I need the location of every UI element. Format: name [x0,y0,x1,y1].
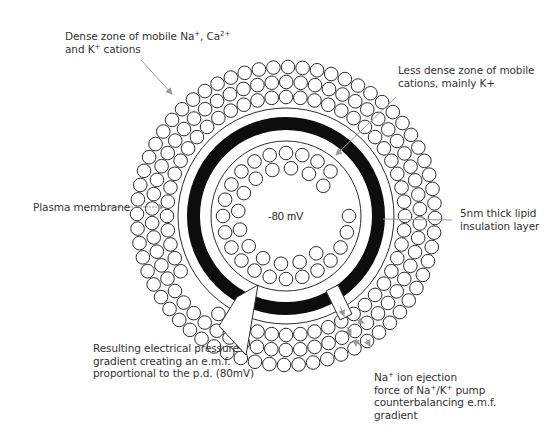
cation-ion [358,298,372,312]
cation-ion [294,327,308,341]
dense-zone-text: , Ca [200,30,220,42]
cation-ion [168,284,182,298]
cation-ion [210,94,224,108]
dense-zone-text: Dense zone of mobile Na [65,30,194,42]
cation-ion [284,161,298,175]
cation-ion [395,181,409,195]
cation-ion [340,226,354,240]
cation-ion [264,342,278,356]
cation-ion [347,111,361,125]
cation-ion [181,142,195,156]
cation-ion [168,134,182,148]
cation-ion [133,236,147,250]
dense-zone-label: Dense zone of mobile Na+, Ca2+ and K+ ca… [65,30,230,55]
cation-ion [368,288,382,302]
cation-ion [375,95,389,109]
na-text: ion ejection [394,371,457,383]
cation-ion [422,168,436,182]
cation-ion [416,268,430,282]
cation-ion [149,137,163,151]
cation-ion [154,290,168,304]
cation-ion [427,226,441,240]
cation-ion [216,209,230,223]
na-ejection-label: Na+ ion ejection force of Na+/K+ pump co… [374,371,496,421]
cation-ion [398,147,412,161]
cation-ion [296,148,310,162]
cation-ion [279,272,293,286]
cation-ion [168,167,182,181]
cation-ion [383,316,397,330]
less-dense-line1: Less dense zone of mobile [398,64,534,77]
cation-ion [200,120,214,134]
cation-ion [317,179,331,193]
electrical-pressure-label: Resulting electrical pressure gradient c… [93,342,254,380]
cation-ion [371,307,385,321]
cation-ion [395,238,409,252]
cation-ion [224,104,238,118]
cation-ion [294,76,308,90]
cation-ion [186,93,200,107]
cation-ion [267,61,281,75]
cation-ion [390,251,404,265]
cation-ion [177,296,191,310]
cation-ion [364,86,378,100]
cation-ion [155,159,169,173]
cation-ion [218,226,232,240]
cation-ion [231,204,245,218]
cation-ion [147,231,161,245]
cation-ion [183,323,197,337]
cation-ion [164,238,178,252]
cation-ion [425,240,439,254]
cation-ion [402,294,416,308]
cation-ion [224,71,238,85]
cation-ion [397,195,411,209]
cation-ion [306,356,320,370]
cation-ion [131,193,145,207]
cation-ion [410,281,424,295]
cation-ion [413,217,427,231]
cation-ion [190,130,204,144]
cation-ion [265,91,279,105]
cation-ion [137,164,151,178]
cation-ion [385,265,399,279]
cation-ion [396,116,410,130]
cation-ion [393,305,407,319]
na-text: /K [436,384,446,396]
cation-ion [322,336,336,350]
cation-ion [141,264,155,278]
superscript: 2+ [220,30,230,38]
lipid-line2: insulation layer [460,220,539,233]
pressure-line3: proportional to the p.d. (80mV) [93,367,254,380]
cation-ion [155,259,169,273]
cation-ion [156,125,170,139]
cation-ion [308,78,322,92]
cation-ion [279,146,293,160]
cation-ion [161,195,175,209]
cation-ion [174,265,188,279]
cation-ion [251,78,265,92]
cation-ion [281,60,295,74]
cation-ion [296,61,310,75]
cation-ion [335,331,349,345]
cation-ion [274,257,288,271]
cation-ion [398,209,412,223]
cation-ion [145,216,159,230]
cation-ion [294,91,308,105]
cation-ion [172,313,186,327]
cation-ion [411,231,425,245]
cation-ion [302,167,316,181]
cation-ion [133,178,147,192]
cation-ion [187,112,201,126]
cation-ion [266,163,280,177]
cation-ion [223,87,237,101]
cation-ion [308,340,322,354]
cation-ion [377,277,391,291]
cation-ion [242,239,256,253]
cation-ion [131,222,145,236]
cation-ion [163,302,177,316]
cation-ion [408,245,422,259]
cation-ion [421,254,435,268]
na-text: Na [374,371,388,383]
cation-ion [428,197,442,211]
cation-ion [390,167,404,181]
